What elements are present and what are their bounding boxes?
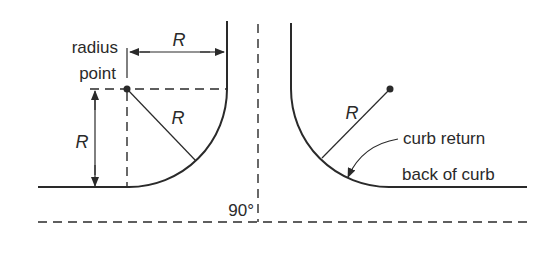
curb-return-leader (348, 139, 398, 177)
r-diag-right-label: R (346, 103, 359, 123)
radius-point-label-line1: radius (72, 38, 118, 57)
back-of-curb-label: back of curb (402, 165, 495, 184)
curb-return-diagram: radius point R R R R 90° curb return bac… (0, 0, 556, 253)
curb-return-label: curb return (403, 129, 485, 148)
r-diag-left-label: R (172, 108, 185, 128)
angle-label: 90° (228, 201, 254, 220)
r-top-label: R (173, 30, 186, 50)
left-curb (38, 21, 227, 187)
left-radius-line (127, 89, 196, 161)
r-left-label: R (76, 132, 89, 152)
right-curb (291, 23, 527, 187)
radius-point-label-line2: point (79, 64, 116, 83)
right-radius-line (322, 89, 390, 158)
